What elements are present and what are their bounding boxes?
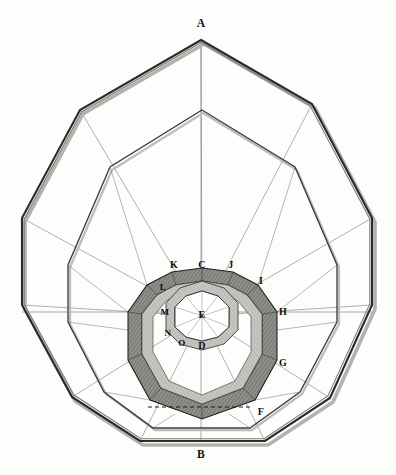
vertex-label-N: N [165,329,172,338]
plate-svg [0,0,396,475]
vertex-label-I: I [259,276,263,286]
vertex-label-J: J [228,260,233,270]
vertex-label-L: L [160,283,166,292]
vertex-label-D: D [198,341,206,351]
vertex-label-A: A [197,18,206,30]
vertex-label-H: H [279,307,287,317]
vertex-label-B: B [197,449,205,461]
vertex-label-F: F [258,407,264,417]
vertex-label-E: E [199,310,206,320]
vertex-label-C: C [198,260,206,270]
vertex-label-M: M [161,308,170,317]
vertex-label-G: G [279,358,287,368]
vertex-label-O: O [178,339,185,348]
vertex-label-K: K [170,260,178,270]
geometric-plate-figure: A B C D E F G H I J K L M N O [0,0,396,475]
